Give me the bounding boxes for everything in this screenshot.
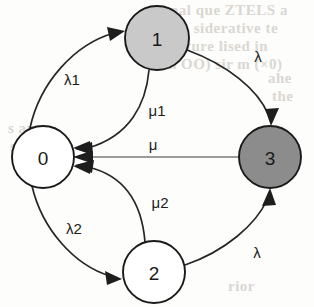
edge-2-to-0-path bbox=[88, 167, 145, 242]
edge-1-to-0 bbox=[75, 70, 149, 155]
node-0-incoming-arrowheads bbox=[73, 141, 92, 174]
edge-3-to-0-arrowhead-tip bbox=[73, 151, 91, 163]
edge-label-mu2: μ2 bbox=[152, 194, 169, 211]
edge-2-to-3 bbox=[185, 188, 276, 265]
edge-0-to-1-arrowhead bbox=[107, 27, 125, 41]
node-3[interactable]: 3 bbox=[239, 126, 301, 188]
node-3-label: 3 bbox=[265, 148, 276, 169]
edge-2-to-0 bbox=[75, 160, 145, 242]
edge-1-to-3-arrowhead bbox=[265, 108, 279, 126]
edge-1-to-0-path bbox=[88, 70, 149, 148]
edge-3-to-0 bbox=[75, 151, 239, 163]
edge-0-to-2-arrowhead bbox=[105, 271, 122, 285]
edge-label-mu1: μ1 bbox=[149, 102, 166, 119]
node-1-label: 1 bbox=[152, 29, 163, 50]
node-0-label: 0 bbox=[38, 148, 49, 169]
edge-1-to-3 bbox=[187, 50, 279, 126]
edge-2-to-0-arrowhead-tip bbox=[73, 161, 92, 174]
diagram-canvas: 1 3 0 2 λ1 λ μ1 μ bbox=[0, 0, 314, 307]
node-2[interactable]: 2 bbox=[123, 241, 185, 303]
state-transition-diagram: nal que ZTELS a in siderative te ture li… bbox=[0, 0, 314, 307]
edge-label-lambda1: λ1 bbox=[64, 71, 80, 88]
edge-label-lambda2: λ2 bbox=[66, 220, 82, 237]
edge-label-lambda-bottom: λ bbox=[253, 244, 261, 261]
edge-2-to-3-arrowhead bbox=[262, 188, 276, 206]
edge-label-mu: μ bbox=[149, 136, 158, 153]
node-0[interactable]: 0 bbox=[12, 126, 74, 188]
node-1[interactable]: 1 bbox=[125, 6, 189, 70]
edge-label-layer: λ1 λ μ1 μ μ2 λ2 λ bbox=[64, 48, 262, 261]
node-2-label: 2 bbox=[149, 263, 160, 284]
edge-label-lambda-top: λ bbox=[254, 48, 262, 65]
